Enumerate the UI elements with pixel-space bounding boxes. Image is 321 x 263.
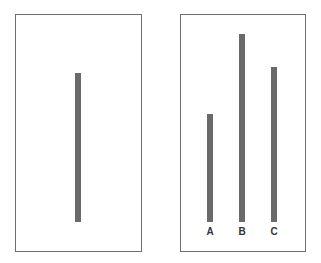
label-b: B	[235, 226, 249, 237]
comparison-panel: A B C	[180, 14, 306, 252]
bar-c	[271, 67, 277, 222]
bar-b	[239, 34, 245, 222]
label-a: A	[203, 226, 217, 237]
label-c: C	[267, 226, 281, 237]
reference-panel	[15, 14, 142, 252]
bar-a	[207, 114, 213, 222]
reference-bar	[75, 73, 81, 222]
